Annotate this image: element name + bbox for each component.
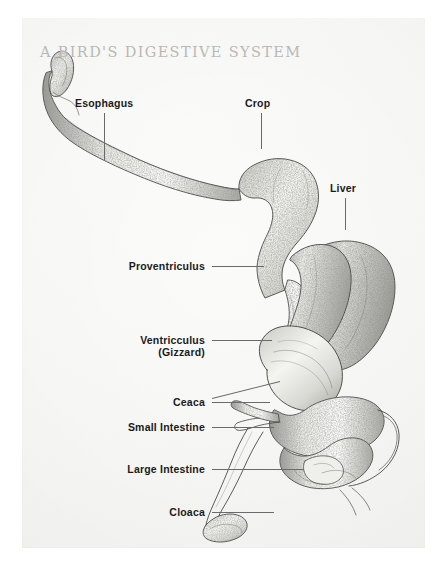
leader-line-small-intestine [212,427,274,428]
label-proventriculus: Proventriculus [95,260,205,273]
leader-line-ceaca-lower [212,402,270,403]
leader-line-cloaca [212,512,274,513]
label-small-intestine: Small Intestine [75,421,205,434]
label-large-intestine: Large Intestine [75,463,205,476]
esophagus-organ [43,51,241,201]
label-gizzard: (Gizzard) [95,346,205,358]
leader-line-crop [261,113,262,149]
leader-line-ventricculus [212,340,272,341]
label-ceaca: Ceaca [110,396,205,409]
leader-line-proventriculus [212,266,264,267]
label-crop: Crop [245,97,270,110]
cloaca-organ [203,514,247,542]
illustration-page: A BIRD'S DIGESTIVE SYSTEM Esophagus Crop… [0,0,445,585]
page-title: A BIRD'S DIGESTIVE SYSTEM [40,44,301,60]
label-liver: Liver [330,182,356,195]
label-esophagus: Esophagus [75,97,133,110]
label-ventricculus: Ventricculus [95,334,205,346]
leader-line-liver [345,198,346,230]
leader-line-esophagus [104,113,105,160]
leader-line-large-intestine [212,469,304,470]
label-cloaca: Cloaca [110,506,205,519]
